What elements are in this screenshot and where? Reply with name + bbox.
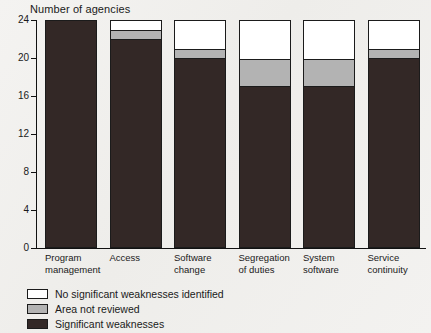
x-axis-label-4: Segregation of duties (239, 252, 310, 275)
bar-segment-no-significant-weaknesses (304, 21, 354, 59)
y-tick-mark (31, 58, 36, 59)
legend-swatch (27, 319, 48, 329)
bar-6 (368, 20, 420, 248)
y-tick-label: 4 (23, 205, 29, 215)
legend-swatch (27, 304, 48, 314)
y-tick-label: 12 (18, 129, 29, 139)
y-tick-mark (31, 20, 36, 21)
y-tick-mark (31, 248, 36, 249)
chart-legend: No significant weaknesses identifiedArea… (27, 287, 327, 332)
x-axis-label-1: Program management (45, 252, 116, 275)
bar-segment-significant-weaknesses (111, 40, 161, 247)
y-tick-label: 8 (23, 167, 29, 177)
x-axis-label-5: System software (303, 252, 374, 275)
legend-label: Significant weaknesses (55, 318, 164, 330)
y-tick-mark (31, 96, 36, 97)
legend-label: No significant weaknesses identified (55, 288, 224, 300)
y-tick-label: 24 (18, 15, 29, 25)
y-axis-line (36, 20, 37, 249)
plot-area: 04812162024 Program managementAccessSoft… (36, 20, 426, 248)
bar-segment-area-not-reviewed (240, 59, 290, 87)
bar-segment-significant-weaknesses (369, 59, 419, 247)
y-tick-mark (31, 134, 36, 135)
bar-segment-significant-weaknesses (304, 87, 354, 247)
bar-segment-no-significant-weaknesses (240, 21, 290, 59)
bar-segment-no-significant-weaknesses (175, 21, 225, 49)
chart-figure: Number of agencies 04812162024 Program m… (0, 0, 431, 333)
bar-segment-area-not-reviewed (111, 30, 161, 39)
x-axis-label-3: Software change (174, 252, 245, 275)
y-tick-label: 16 (18, 91, 29, 101)
legend-label: Area not reviewed (55, 303, 140, 315)
bar-1 (45, 20, 97, 248)
bar-2 (110, 20, 162, 248)
legend-item-3: Significant weaknesses (27, 317, 327, 331)
chart-title: Number of agencies (30, 3, 130, 15)
bar-segment-significant-weaknesses (175, 59, 225, 247)
legend-item-2: Area not reviewed (27, 302, 327, 316)
bar-segment-no-significant-weaknesses (111, 21, 161, 30)
x-axis-line (31, 248, 426, 249)
bar-3 (174, 20, 226, 248)
legend-swatch (27, 289, 48, 299)
bar-5 (303, 20, 355, 248)
x-axis-label-6: Service continuity (368, 252, 431, 275)
bar-4 (239, 20, 291, 248)
y-tick-mark (31, 210, 36, 211)
bar-segment-area-not-reviewed (175, 49, 225, 58)
y-tick-mark (31, 172, 36, 173)
bar-segment-area-not-reviewed (304, 59, 354, 87)
bar-segment-significant-weaknesses (46, 21, 96, 247)
y-tick-label: 0 (23, 243, 29, 253)
x-axis-label-2: Access (110, 252, 181, 264)
bar-segment-area-not-reviewed (369, 49, 419, 58)
bar-segment-significant-weaknesses (240, 87, 290, 247)
legend-item-1: No significant weaknesses identified (27, 287, 327, 301)
bar-segment-no-significant-weaknesses (369, 21, 419, 49)
y-tick-label: 20 (18, 53, 29, 63)
